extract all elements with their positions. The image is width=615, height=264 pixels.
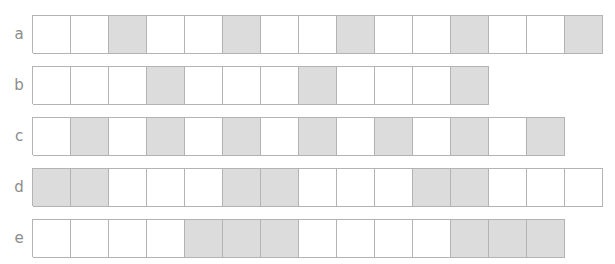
cell-shaded bbox=[261, 169, 299, 207]
row-label-b: b bbox=[6, 78, 32, 93]
cell-shaded bbox=[223, 118, 261, 156]
cell-shaded bbox=[451, 118, 489, 156]
cell-shaded bbox=[261, 220, 299, 258]
cell-shaded bbox=[375, 118, 413, 156]
cell-shaded bbox=[489, 220, 527, 258]
cell-unshaded bbox=[109, 118, 147, 156]
cell-unshaded bbox=[413, 67, 451, 105]
cell-unshaded bbox=[147, 220, 185, 258]
cell-unshaded bbox=[337, 220, 375, 258]
cell-unshaded bbox=[337, 169, 375, 207]
cell-shaded bbox=[565, 16, 603, 54]
cell-unshaded bbox=[337, 67, 375, 105]
cell-unshaded bbox=[527, 16, 565, 54]
cell-unshaded bbox=[489, 16, 527, 54]
cell-unshaded bbox=[565, 169, 603, 207]
cell-unshaded bbox=[185, 118, 223, 156]
cell-shaded bbox=[71, 169, 109, 207]
cell-unshaded bbox=[185, 67, 223, 105]
cell-shaded bbox=[185, 220, 223, 258]
cell-shaded bbox=[71, 118, 109, 156]
strip-a bbox=[32, 15, 603, 53]
cell-unshaded bbox=[109, 169, 147, 207]
cell-unshaded bbox=[261, 16, 299, 54]
cell-shaded bbox=[109, 16, 147, 54]
cell-shaded bbox=[223, 220, 261, 258]
strip-row-b: b bbox=[6, 65, 489, 105]
cell-unshaded bbox=[375, 220, 413, 258]
fraction-strip-diagram: a b c d e bbox=[0, 0, 615, 264]
cell-unshaded bbox=[375, 67, 413, 105]
cell-unshaded bbox=[33, 220, 71, 258]
cell-shaded bbox=[451, 16, 489, 54]
row-label-d: d bbox=[6, 180, 32, 195]
cell-shaded bbox=[147, 118, 185, 156]
cell-unshaded bbox=[375, 169, 413, 207]
cell-shaded bbox=[527, 220, 565, 258]
cell-shaded bbox=[223, 169, 261, 207]
cell-unshaded bbox=[33, 118, 71, 156]
cell-unshaded bbox=[375, 16, 413, 54]
cell-unshaded bbox=[109, 67, 147, 105]
strip-d bbox=[32, 168, 603, 206]
cell-unshaded bbox=[71, 16, 109, 54]
cell-unshaded bbox=[489, 118, 527, 156]
row-label-e: e bbox=[6, 231, 32, 246]
cell-unshaded bbox=[299, 169, 337, 207]
strip-row-e: e bbox=[6, 218, 565, 258]
cell-unshaded bbox=[527, 169, 565, 207]
cell-shaded bbox=[451, 220, 489, 258]
strip-b bbox=[32, 66, 489, 104]
cell-unshaded bbox=[413, 220, 451, 258]
cell-unshaded bbox=[185, 169, 223, 207]
cell-unshaded bbox=[147, 169, 185, 207]
cell-unshaded bbox=[223, 67, 261, 105]
cell-unshaded bbox=[261, 118, 299, 156]
cell-unshaded bbox=[147, 16, 185, 54]
strip-c bbox=[32, 117, 565, 155]
cell-shaded bbox=[299, 67, 337, 105]
strip-row-d: d bbox=[6, 167, 603, 207]
cell-shaded bbox=[147, 67, 185, 105]
cell-shaded bbox=[33, 169, 71, 207]
cell-shaded bbox=[451, 67, 489, 105]
cell-shaded bbox=[413, 169, 451, 207]
cell-unshaded bbox=[413, 118, 451, 156]
cell-unshaded bbox=[489, 169, 527, 207]
cell-unshaded bbox=[261, 67, 299, 105]
cell-unshaded bbox=[109, 220, 147, 258]
cell-shaded bbox=[299, 118, 337, 156]
cell-unshaded bbox=[299, 220, 337, 258]
cell-unshaded bbox=[413, 16, 451, 54]
row-label-a: a bbox=[6, 27, 32, 42]
cell-shaded bbox=[451, 169, 489, 207]
cell-shaded bbox=[527, 118, 565, 156]
cell-unshaded bbox=[337, 118, 375, 156]
cell-shaded bbox=[337, 16, 375, 54]
cell-unshaded bbox=[71, 220, 109, 258]
cell-unshaded bbox=[33, 67, 71, 105]
strip-e bbox=[32, 219, 565, 257]
cell-shaded bbox=[223, 16, 261, 54]
strip-row-c: c bbox=[6, 116, 565, 156]
strip-row-a: a bbox=[6, 14, 603, 54]
cell-unshaded bbox=[33, 16, 71, 54]
cell-unshaded bbox=[185, 16, 223, 54]
cell-unshaded bbox=[71, 67, 109, 105]
row-label-c: c bbox=[6, 129, 32, 144]
cell-unshaded bbox=[299, 16, 337, 54]
